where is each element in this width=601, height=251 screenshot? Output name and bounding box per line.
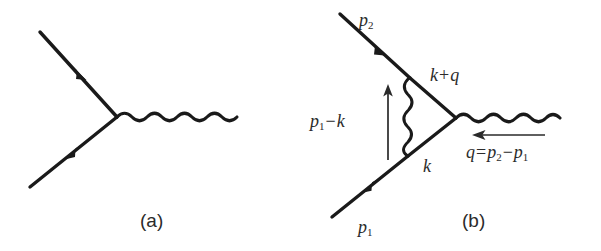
label-p1: p1 <box>358 218 373 236</box>
label-p1-minus-k-subscript: 1 <box>319 120 325 132</box>
panel-b-internal-photon-line <box>403 78 412 156</box>
panel-b-loop-lower-fermion-line <box>408 118 456 156</box>
label-k: k <box>423 157 431 175</box>
label-q-equals-sign: = <box>475 142 487 162</box>
label-q-equals-p2-minus-p1: q=p2−p1 <box>466 143 528 161</box>
label-k-plus-q-k: k <box>430 65 438 85</box>
label-k-plus-q-q: q <box>450 65 459 85</box>
label-p2-base: p <box>359 10 368 30</box>
label-p1-base: p <box>358 217 367 237</box>
panel-a-photon-line <box>117 113 237 121</box>
label-p1-minus-k-p: p <box>310 111 319 131</box>
label-q-minus-sign: − <box>502 142 514 162</box>
label-p2: p2 <box>359 11 374 29</box>
panel-b-caption: (b) <box>462 211 485 230</box>
panel-a-caption: (a) <box>140 211 163 230</box>
label-p1-subscript: 1 <box>367 226 373 238</box>
label-k-plus-q-operator: + <box>438 65 450 85</box>
label-q-p1-subscript: 1 <box>523 151 529 163</box>
feynman-diagram-canvas <box>0 0 601 251</box>
label-q-p1: p <box>514 142 523 162</box>
panel-b-external-photon-line <box>456 114 560 122</box>
label-p1-minus-k-operator: − <box>325 111 337 131</box>
label-p1-minus-k: p1−k <box>310 112 345 130</box>
label-p1-minus-k-k: k <box>337 111 345 131</box>
panel-b-diagram <box>332 14 560 217</box>
label-p2-subscript: 2 <box>368 19 374 31</box>
feynman-figure: (a) (b) p2 p1 k+q k p1−k q=p2−p1 <box>0 0 601 251</box>
label-q-p2: p <box>487 142 496 162</box>
label-k-plus-q: k+q <box>430 66 459 84</box>
label-q-base: q <box>466 142 475 162</box>
label-q-p2-subscript: 2 <box>496 151 502 163</box>
panel-a-lower-fermion-line <box>30 117 117 187</box>
panel-b-outgoing-fermion-line <box>340 14 410 78</box>
panel-a-diagram <box>30 32 237 187</box>
